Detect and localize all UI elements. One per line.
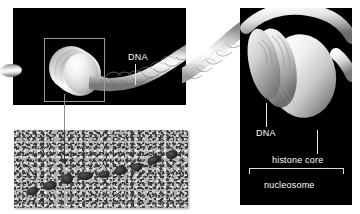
micrograph-pointer-arrow (64, 130, 65, 164)
nucleosome-bracket (249, 168, 344, 174)
nucleosome-detail-art (240, 8, 352, 205)
panel-electron-micrograph (14, 130, 188, 208)
magnification-region-box (44, 38, 105, 102)
label-dna-overview: DNA (128, 52, 148, 62)
panel-nucleosome-detail: DNA histone core nucleosome (240, 8, 352, 205)
label-nucleosome: nucleosome (264, 180, 315, 190)
panel-chromatin-overview: DNA (13, 8, 186, 105)
leader-line-dna-detail (266, 103, 267, 127)
nucleosome-3d-render (240, 8, 352, 142)
label-dna-detail: DNA (256, 128, 276, 138)
leader-line-histone-core (317, 130, 318, 154)
label-histone-core: histone core (272, 155, 323, 165)
nucleosome-figure: DNA (0, 0, 360, 214)
leader-line-dna-overview (135, 64, 136, 85)
micrograph-grain-highlights (14, 130, 188, 208)
